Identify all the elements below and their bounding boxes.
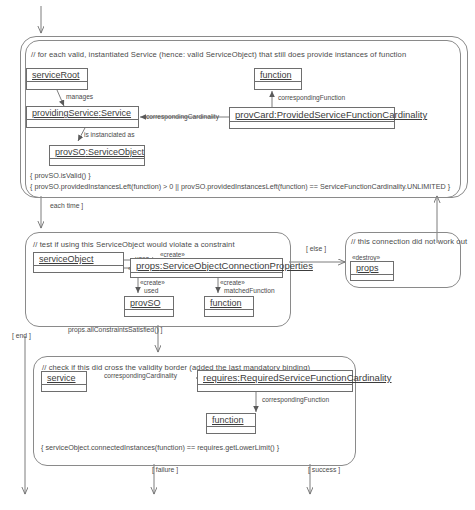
object-prov-so-attrs xyxy=(50,158,144,166)
object-props-name: props:ServiceObjectConnectionProperties xyxy=(131,259,282,272)
object-providing-service-attrs xyxy=(27,119,138,127)
edge-label-corresponding-function-bottom: correspondingFunction xyxy=(262,396,329,403)
edge-label-create-top: «create» xyxy=(160,251,185,258)
object-prov-so[interactable]: provSO:ServiceObject xyxy=(49,145,145,166)
object-prov-card-attrs xyxy=(230,121,394,129)
object-prov-card[interactable]: provCard:ProvidedServiceFunctionCardinal… xyxy=(229,107,395,129)
object-service[interactable]: service xyxy=(41,371,87,392)
object-requires-name: requires:RequiredServiceFunctionCardinal… xyxy=(198,371,352,384)
object-service-attrs xyxy=(42,384,86,392)
guard-success: [ success ] xyxy=(308,466,340,473)
object-requires[interactable]: requires:RequiredServiceFunctionCardinal… xyxy=(197,370,353,392)
check-constraint-1: { serviceObject.connectedInstances(funct… xyxy=(41,443,279,452)
guard-all-constraints-satisfied: props.allConstraintsSatisfied() ] xyxy=(68,326,162,333)
edge-label-corresponding-cardinality-top: correspondingCardinality xyxy=(146,113,219,120)
object-service-root-attrs xyxy=(27,81,87,89)
guard-else: [ else ] xyxy=(306,245,326,252)
guard-end: [ end ] xyxy=(12,332,31,339)
object-function-middle-attrs xyxy=(205,309,253,317)
object-function-middle[interactable]: function xyxy=(204,296,254,317)
object-requires-attrs xyxy=(198,384,352,392)
else-destroy-stereotype: «destroy» xyxy=(352,254,380,261)
object-function-bottom[interactable]: function xyxy=(206,413,256,434)
object-props[interactable]: props:ServiceObjectConnectionProperties xyxy=(130,258,283,278)
edge-label-corresponding-cardinality-bottom: correspondingCardinality xyxy=(104,372,177,379)
object-providing-service-name: providingService:Service xyxy=(27,107,138,119)
object-props-destroy-attrs xyxy=(351,274,393,282)
object-service-object[interactable]: serviceObject xyxy=(33,252,124,273)
edge-label-create-used: «create» xyxy=(140,279,165,286)
object-service-object-attrs xyxy=(34,265,123,273)
object-props-destroy-name: props xyxy=(351,262,393,274)
test-frame-comment: // test if using this ServiceObject woul… xyxy=(33,240,235,249)
edge-label-corresponding-function-top: correspondingFunction xyxy=(278,94,345,101)
object-prov-so-small-name: provSO xyxy=(125,297,173,309)
object-providing-service[interactable]: providingService:Service xyxy=(26,106,139,128)
guard-each-time: each time ] xyxy=(50,202,83,209)
edge-label-create-matched: «create» xyxy=(220,279,245,286)
object-service-root-name: serviceRoot xyxy=(27,69,87,81)
object-prov-so-small[interactable]: provSO xyxy=(124,296,174,317)
else-frame-comment: // this connection did not work out xyxy=(351,237,467,246)
loop-constraint-2: { provSO.providedInstancesLeft(function)… xyxy=(30,182,450,191)
guard-failure: [ failure ] xyxy=(152,466,178,473)
object-service-name: service xyxy=(42,372,86,384)
object-function-top[interactable]: function xyxy=(254,68,302,90)
loop-constraint-1: { provSO.isValid() } xyxy=(30,171,91,180)
edge-label-is-instanciated-as: is instanciated as xyxy=(84,131,135,138)
diagram-canvas: // for each valid, instantiated Service … xyxy=(0,0,475,510)
edge-label-matched-function: matchedFunction xyxy=(224,287,275,294)
object-prov-so-name: provSO:ServiceObject xyxy=(50,146,144,158)
loop-frame-comment: // for each valid, instantiated Service … xyxy=(31,50,406,59)
edge-label-used: used xyxy=(144,287,158,294)
object-function-top-attrs xyxy=(255,81,301,89)
object-props-destroy[interactable]: props xyxy=(350,261,394,281)
object-function-middle-name: function xyxy=(205,297,253,309)
object-service-object-name: serviceObject xyxy=(34,253,123,265)
object-function-bottom-name: function xyxy=(207,414,255,426)
object-prov-card-name: provCard:ProvidedServiceFunctionCardinal… xyxy=(230,108,394,121)
object-prov-so-small-attrs xyxy=(125,309,173,317)
edge-label-manages: manages xyxy=(66,93,93,100)
object-function-bottom-attrs xyxy=(207,426,255,434)
object-service-root[interactable]: serviceRoot xyxy=(26,68,88,90)
object-function-top-name: function xyxy=(255,69,301,81)
